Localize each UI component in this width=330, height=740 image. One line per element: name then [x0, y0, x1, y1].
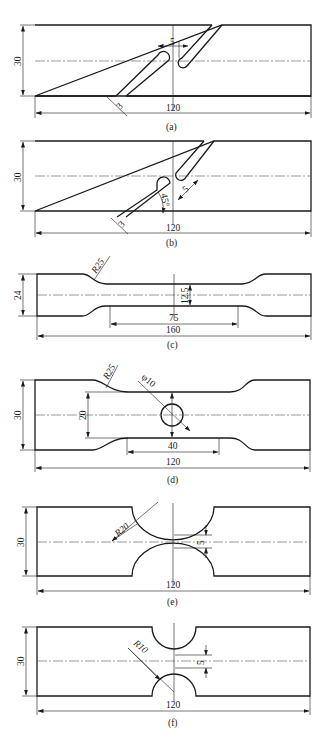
caption-a: (a) — [166, 122, 177, 133]
lower-slot — [116, 51, 170, 96]
gauge-length-label: 75 — [169, 313, 179, 323]
height-label: 30 — [16, 656, 26, 666]
panel-b: 30 120 5 45° 3 (b) — [13, 141, 311, 249]
slot-width-label: 3 — [114, 101, 125, 112]
hole-leader — [138, 381, 190, 431]
radius-label: R10 — [131, 637, 150, 655]
offset-label: 5 — [180, 184, 191, 195]
length-label: 120 — [166, 580, 181, 590]
caption-d: (d) — [167, 475, 178, 486]
radius-label: R25 — [89, 257, 107, 276]
angle-label: 45° — [159, 193, 171, 208]
height-label: 24 — [13, 290, 23, 300]
upper-slot — [176, 141, 214, 180]
length-label: 160 — [166, 325, 181, 335]
length-label: 120 — [166, 103, 181, 113]
panel-a: 30 120 5 3 (a) — [13, 25, 311, 133]
gauge-width-label: 20 — [78, 410, 88, 420]
caption-b: (b) — [166, 238, 177, 249]
panel-c: 24 12.5 75 160 R25 (c) — [13, 256, 311, 351]
gauge-width-label: 12.5 — [180, 287, 190, 304]
height-label: 30 — [16, 537, 26, 547]
radius-label: R20 — [112, 521, 131, 539]
height-label: 30 — [13, 172, 23, 182]
ligament-label: 5 — [196, 540, 206, 545]
gap-label: 5 — [170, 37, 175, 47]
length-label: 120 — [166, 700, 181, 710]
panel-e: 30 5 R20 120 (e) — [16, 502, 310, 608]
panel-d: 30 20 40 120 R25 φ10 (d) — [13, 363, 310, 486]
caption-f: (f) — [168, 718, 178, 729]
length-label: 120 — [166, 457, 181, 467]
height-label: 30 — [13, 410, 23, 420]
length-label: 120 — [166, 223, 181, 233]
specimen-drawings: 30 120 5 3 (a) 30 120 5 — [0, 0, 330, 740]
gauge-length-label: 40 — [168, 441, 178, 451]
slot-width-label: 3 — [116, 219, 127, 230]
panel-f: 30 5 R10 120 (f) — [16, 623, 310, 729]
height-label: 30 — [13, 56, 23, 66]
notched-outline — [37, 627, 310, 696]
ligament-label: 5 — [196, 660, 206, 665]
radius-label: R25 — [101, 363, 118, 382]
upper-slot — [178, 25, 222, 68]
notched-outline — [37, 507, 310, 576]
hole-label: φ10 — [140, 372, 158, 389]
caption-e: (e) — [167, 597, 178, 608]
caption-c: (c) — [167, 340, 178, 351]
